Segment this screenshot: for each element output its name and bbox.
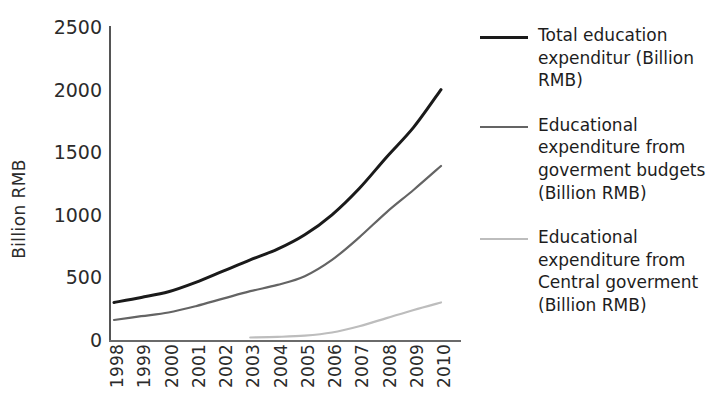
y-axis-tick-500: 500 <box>10 266 110 288</box>
y-axis-tick-2000: 2000 <box>10 79 110 101</box>
chart-legend: Total education expenditur (Billion RMB)… <box>480 24 726 339</box>
x-axis-tick-labels: 1998199920002001200220032004200520062007… <box>110 344 455 418</box>
legend-item-label: Total education expenditur (Billion RMB) <box>538 24 718 92</box>
x-axis-tick-1999: 1999 <box>134 344 154 388</box>
legend-item-3[interactable]: Educational expenditure from Central gov… <box>480 226 726 316</box>
x-axis-tick-2008: 2008 <box>380 344 400 388</box>
line-chart-figure: Billion RMB 05001000150020002500 1998199… <box>0 0 728 418</box>
series-line-2 <box>114 166 441 320</box>
legend-item-label: Educational expenditure from goverment b… <box>538 114 718 204</box>
legend-item-2[interactable]: Educational expenditure from goverment b… <box>480 114 726 204</box>
plot-area <box>110 27 455 340</box>
series-lines <box>110 27 455 340</box>
x-axis-tick-2010: 2010 <box>434 344 454 388</box>
x-axis-spine <box>109 340 461 342</box>
y-axis-tick-labels: 05001000150020002500 <box>0 0 110 418</box>
x-axis-tick-2003: 2003 <box>243 344 263 388</box>
legend-line-swatch-icon <box>480 126 528 128</box>
y-axis-tick-2500: 2500 <box>10 16 110 38</box>
legend-item-1[interactable]: Total education expenditur (Billion RMB) <box>480 24 726 92</box>
x-axis-tick-2004: 2004 <box>271 344 291 388</box>
x-axis-tick-2007: 2007 <box>352 344 372 388</box>
series-line-1 <box>114 90 441 303</box>
x-axis-tick-2005: 2005 <box>298 344 318 388</box>
y-axis-tick-0: 0 <box>10 329 110 351</box>
legend-line-swatch-icon <box>480 36 528 39</box>
x-axis-tick-2006: 2006 <box>325 344 345 388</box>
y-axis-tick-1000: 1000 <box>10 204 110 226</box>
y-axis-tick-1500: 1500 <box>10 141 110 163</box>
x-axis-tick-2001: 2001 <box>189 344 209 388</box>
legend-line-swatch-icon <box>480 238 528 240</box>
x-axis-tick-1998: 1998 <box>107 344 127 388</box>
x-axis-tick-2002: 2002 <box>216 344 236 388</box>
x-axis-tick-2009: 2009 <box>407 344 427 388</box>
x-axis-tick-2000: 2000 <box>162 344 182 388</box>
series-line-3 <box>250 302 441 337</box>
legend-item-label: Educational expenditure from Central gov… <box>538 226 718 316</box>
